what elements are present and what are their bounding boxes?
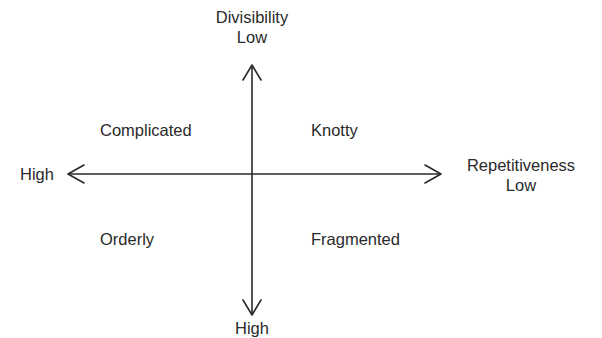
horizontal-axis-name: Repetitiveness — [446, 155, 596, 175]
horizontal-axis-right-label: Low — [446, 175, 596, 195]
quadrant-top-left: Complicated — [100, 120, 192, 140]
vertical-axis-bottom-label: High — [222, 318, 282, 338]
quadrant-bottom-right: Fragmented — [311, 229, 400, 249]
quadrant-bottom-left: Orderly — [100, 229, 154, 249]
horizontal-axis-title: Repetitiveness Low — [446, 155, 596, 195]
vertical-axis-title: Divisibility Low — [202, 7, 302, 47]
vertical-axis-name: Divisibility — [202, 7, 302, 27]
horizontal-axis-left-label: High — [20, 164, 54, 184]
quadrant-top-right: Knotty — [311, 120, 358, 140]
vertical-axis-top-label: Low — [202, 27, 302, 47]
